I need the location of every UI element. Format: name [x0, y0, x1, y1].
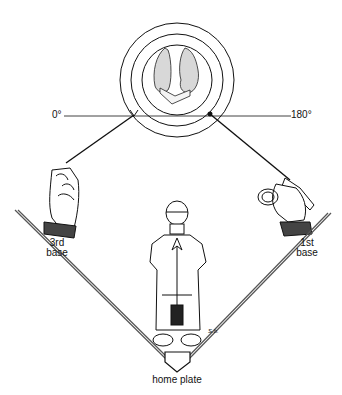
third-base-label: 3rd base [44, 238, 70, 258]
lungs-specimen [154, 48, 198, 104]
first-base-label: 1st base [294, 238, 320, 258]
surgeon-figure [150, 201, 206, 346]
third-base-line2: base [44, 248, 70, 258]
illustration [0, 0, 342, 395]
artist-signature: S.b. [208, 326, 219, 336]
left-hand-figure [44, 168, 79, 238]
right-hand-figure [258, 184, 312, 236]
angle-label-180: 180° [291, 110, 312, 120]
home-plate-label: home plate [147, 375, 207, 385]
first-base-line2: base [294, 248, 320, 258]
home-plate [165, 352, 190, 372]
angle-label-0: 0° [52, 110, 62, 120]
left-instrument [66, 110, 138, 163]
